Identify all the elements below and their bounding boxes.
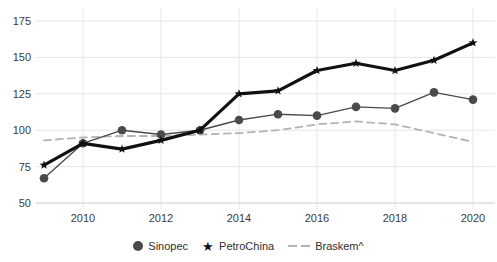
- data-point-marker: [274, 110, 283, 119]
- y-tick-label: 150: [13, 51, 31, 63]
- x-tick-label: 2012: [149, 212, 173, 224]
- series-line-sinopec: [44, 92, 473, 178]
- data-point-marker: [118, 126, 127, 135]
- x-axis-tick-labels: 201020122014201620182020: [71, 212, 485, 224]
- legend-item-petrochina[interactable]: ★ PetroChina: [202, 240, 274, 253]
- legend-label-petrochina: PetroChina: [219, 240, 274, 252]
- data-point-marker: [430, 88, 439, 97]
- y-tick-label: 50: [19, 197, 31, 209]
- data-point-marker: [469, 95, 478, 104]
- legend-label-sinopec: Sinopec: [148, 240, 188, 252]
- data-point-marker: [235, 116, 244, 125]
- circle-marker-icon: [133, 241, 143, 251]
- data-point-marker: [391, 104, 400, 113]
- data-point-marker: [40, 174, 49, 183]
- chart-legend: Sinopec ★ PetroChina Braskem^: [0, 230, 497, 262]
- data-point-marker: [313, 111, 322, 120]
- data-series-layer: [40, 38, 478, 182]
- x-tick-label: 2020: [461, 212, 485, 224]
- x-tick-label: 2010: [71, 212, 95, 224]
- y-tick-label: 100: [13, 124, 31, 136]
- data-point-marker: [118, 145, 127, 153]
- series-line-petrochina: [44, 43, 473, 165]
- data-point-marker: [352, 59, 361, 67]
- x-tick-label: 2018: [383, 212, 407, 224]
- legend-label-braskem: Braskem^: [315, 240, 364, 252]
- chart-svg: 5075100125150175 20102012201420162018202…: [0, 0, 497, 230]
- data-point-marker: [352, 103, 361, 112]
- legend-item-sinopec[interactable]: Sinopec: [133, 240, 188, 252]
- line-chart: 5075100125150175 20102012201420162018202…: [0, 0, 497, 262]
- x-tick-label: 2014: [227, 212, 251, 224]
- y-tick-label: 75: [19, 161, 31, 173]
- y-axis-tick-labels: 5075100125150175: [13, 15, 31, 209]
- y-tick-label: 125: [13, 88, 31, 100]
- dashed-line-icon: [288, 245, 310, 247]
- y-tick-label: 175: [13, 15, 31, 27]
- plot-area: 5075100125150175 20102012201420162018202…: [0, 0, 497, 230]
- gridlines: [36, 8, 495, 209]
- star-marker-icon: ★: [202, 240, 214, 253]
- legend-item-braskem[interactable]: Braskem^: [288, 240, 364, 252]
- x-tick-label: 2016: [305, 212, 329, 224]
- series-line-braskem: [44, 121, 473, 141]
